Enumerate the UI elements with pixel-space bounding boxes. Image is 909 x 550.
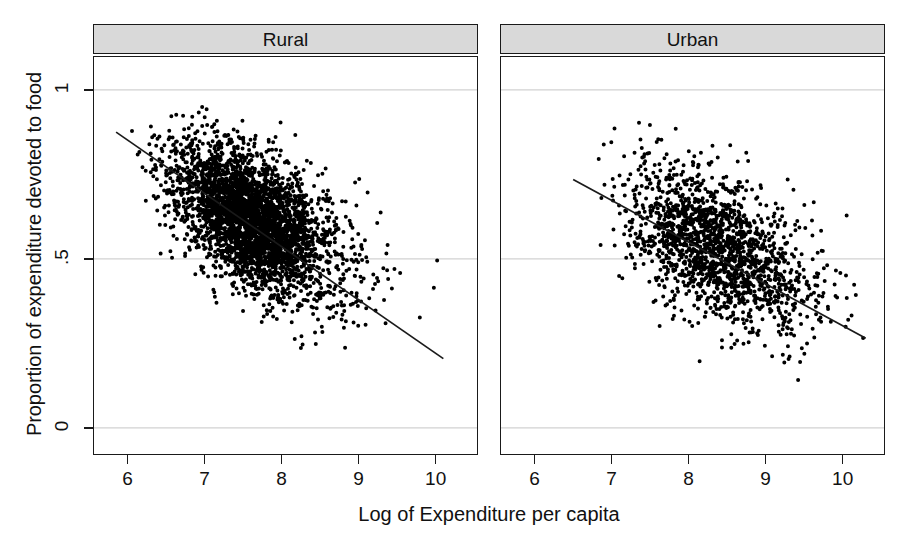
data-points [597,121,865,382]
scatter-plot-urban [0,0,909,550]
chart-figure: Proportion of expenditure devoted to foo… [0,0,909,550]
